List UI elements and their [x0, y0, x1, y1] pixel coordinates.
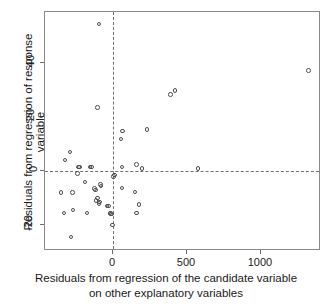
zero-horizontal-reference-line	[45, 171, 319, 172]
data-point	[120, 165, 125, 170]
data-point	[97, 22, 102, 27]
x-tick-label: 1000	[240, 256, 280, 268]
x-tick-mark	[112, 250, 113, 254]
data-point	[68, 150, 73, 155]
data-point	[83, 180, 88, 185]
data-point	[140, 166, 145, 171]
data-point	[95, 105, 100, 110]
data-point	[306, 68, 311, 73]
data-point	[92, 186, 97, 191]
chart-container: 05001000 -2002040 Residuals from regress…	[0, 0, 332, 304]
data-point	[120, 186, 125, 191]
data-point	[89, 165, 94, 170]
x-tick-mark	[186, 250, 187, 254]
data-point	[196, 166, 201, 171]
data-point	[106, 204, 111, 209]
data-point	[71, 208, 76, 213]
data-point	[77, 165, 82, 170]
data-point	[133, 190, 138, 195]
data-point	[119, 137, 124, 142]
x-tick-mark	[260, 250, 261, 254]
data-point	[69, 235, 74, 240]
x-axis-label-line1: Residuals from regression of the candida…	[0, 271, 332, 285]
x-tick-label: 500	[166, 256, 206, 268]
data-point	[134, 211, 139, 216]
data-point	[85, 211, 90, 216]
data-point	[70, 190, 75, 195]
data-point	[168, 92, 173, 97]
y-axis-label: Residuals from regression of response va…	[22, 12, 46, 252]
data-point	[98, 182, 103, 187]
data-point	[111, 174, 116, 179]
data-point	[134, 162, 139, 167]
data-point	[59, 190, 64, 195]
data-point	[120, 129, 125, 134]
data-point	[173, 88, 178, 93]
data-point	[97, 200, 102, 205]
plot-area	[44, 11, 320, 250]
data-point	[75, 171, 80, 176]
x-axis-label-line2: on other explanatory variables	[0, 286, 332, 300]
x-tick-label: 0	[92, 256, 132, 268]
data-point	[110, 223, 115, 228]
data-point	[62, 211, 67, 216]
data-point	[145, 127, 150, 132]
data-point	[137, 202, 142, 207]
data-point	[63, 158, 68, 163]
